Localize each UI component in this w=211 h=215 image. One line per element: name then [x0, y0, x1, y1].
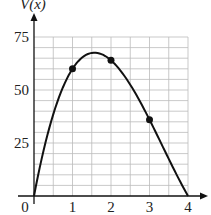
- y-tick-label: 50: [14, 82, 29, 98]
- y-axis-arrow-icon: [31, 13, 38, 21]
- data-point: [146, 116, 153, 123]
- x-tick-label: 4: [184, 199, 192, 215]
- chart: 01234255075V(x): [0, 0, 211, 215]
- y-tick-label: 25: [14, 135, 29, 151]
- x-tick-label: 2: [107, 199, 115, 215]
- x-tick-label: 1: [69, 199, 77, 215]
- data-point: [69, 65, 76, 72]
- y-tick-label: 75: [14, 29, 29, 45]
- y-axis-label: V(x): [20, 0, 46, 13]
- x-tick-label: 0: [21, 199, 29, 215]
- x-tick-label: 3: [146, 199, 154, 215]
- x-axis-arrow-icon: [200, 193, 208, 200]
- data-point: [108, 57, 115, 64]
